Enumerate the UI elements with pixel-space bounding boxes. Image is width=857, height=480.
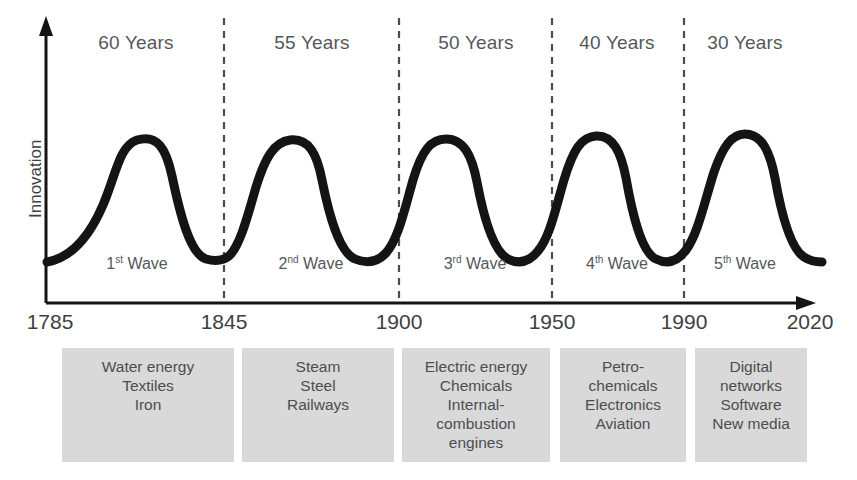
wave-word-5: Wave: [736, 255, 776, 272]
year-tick-1990: 1990: [644, 310, 724, 334]
technology-item: Chemicals: [402, 376, 550, 395]
year-tick-2020: 2020: [770, 310, 850, 334]
year-tick-1785: 1785: [10, 310, 90, 334]
wave-suffix-3: rd: [453, 254, 462, 265]
technology-item: engines: [402, 433, 550, 452]
wave-label-5: 5th Wave: [690, 255, 800, 273]
wave-word-4: Wave: [608, 255, 648, 272]
technology-item: Digital: [695, 357, 807, 376]
technology-item: New media: [695, 414, 807, 433]
year-tick-1845: 1845: [184, 310, 264, 334]
technology-item: combustion: [402, 414, 550, 433]
technology-item: Steam: [242, 357, 394, 376]
wave-label-2: 2nd Wave: [256, 255, 366, 273]
wave-ordinal-2: 2: [279, 255, 288, 272]
technology-item: Electric energy: [402, 357, 550, 376]
technology-box-3: Electric energy Chemicals Internal- comb…: [402, 348, 550, 462]
wave-label-4: 4th Wave: [562, 255, 672, 273]
technology-item: Textiles: [62, 376, 234, 395]
kondratieff-wave-diagram: Innovation 60 Years 55 Years 50 Years 40…: [0, 0, 857, 480]
technology-item: Railways: [242, 395, 394, 414]
technology-item: Software: [695, 395, 807, 414]
period-duration-5: 30 Years: [689, 32, 801, 54]
technology-item: Aviation: [560, 414, 686, 433]
year-tick-1950: 1950: [512, 310, 592, 334]
wave-ordinal-3: 3: [444, 255, 453, 272]
technology-item: Internal-: [402, 395, 550, 414]
period-duration-2: 55 Years: [256, 32, 368, 54]
period-duration-4: 40 Years: [561, 32, 673, 54]
technology-item: Iron: [62, 395, 234, 414]
technology-item: Water energy: [62, 357, 234, 376]
y-axis-arrowhead: [39, 16, 53, 36]
x-axis-arrowhead: [796, 296, 816, 310]
technology-box-4: Petro- chemicals Electronics Aviation: [560, 348, 686, 462]
technology-box-1: Water energy Textiles Iron: [62, 348, 234, 462]
technology-box-2: Steam Steel Railways: [242, 348, 394, 462]
wave-suffix-4: th: [595, 254, 603, 265]
wave-suffix-1: st: [115, 254, 123, 265]
wave-label-3: 3rd Wave: [420, 255, 530, 273]
technology-item: Petro-: [560, 357, 686, 376]
wave-word-1: Wave: [127, 255, 167, 272]
technology-item: chemicals: [560, 376, 686, 395]
wave-label-1: 1st Wave: [82, 255, 192, 273]
wave-suffix-5: th: [723, 254, 731, 265]
technology-item: networks: [695, 376, 807, 395]
wave-ordinal-1: 1: [106, 255, 115, 272]
wave-word-2: Wave: [303, 255, 343, 272]
wave-word-3: Wave: [466, 255, 506, 272]
innovation-wave-curve: [47, 134, 822, 262]
period-duration-1: 60 Years: [80, 32, 192, 54]
technology-item: Steel: [242, 376, 394, 395]
y-axis-title: Innovation: [26, 140, 46, 218]
wave-ordinal-5: 5: [714, 255, 723, 272]
technology-box-5: Digital networks Software New media: [695, 348, 807, 462]
technology-item: Electronics: [560, 395, 686, 414]
wave-ordinal-4: 4: [586, 255, 595, 272]
period-duration-3: 50 Years: [420, 32, 532, 54]
year-tick-1900: 1900: [359, 310, 439, 334]
wave-suffix-2: nd: [288, 254, 299, 265]
